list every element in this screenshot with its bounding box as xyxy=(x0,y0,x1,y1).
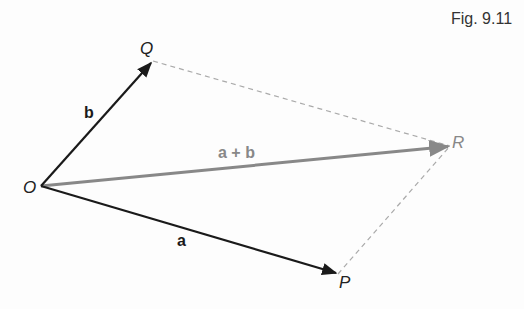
dashed-edge-p-r xyxy=(338,146,450,274)
vector-label-a: a xyxy=(177,232,186,249)
vector-label-a-plus-b: a + b xyxy=(218,144,255,161)
vector-b xyxy=(41,63,151,186)
vector-a xyxy=(41,186,336,273)
point-label-o: O xyxy=(23,178,36,197)
point-label-p: P xyxy=(339,273,351,292)
dashed-edge-q-r xyxy=(153,61,450,146)
point-label-r: R xyxy=(452,133,464,152)
point-label-q: Q xyxy=(140,39,153,58)
parallelogram-diagram: O Q R P b a a + b xyxy=(0,0,524,309)
vector-label-b: b xyxy=(84,104,94,121)
